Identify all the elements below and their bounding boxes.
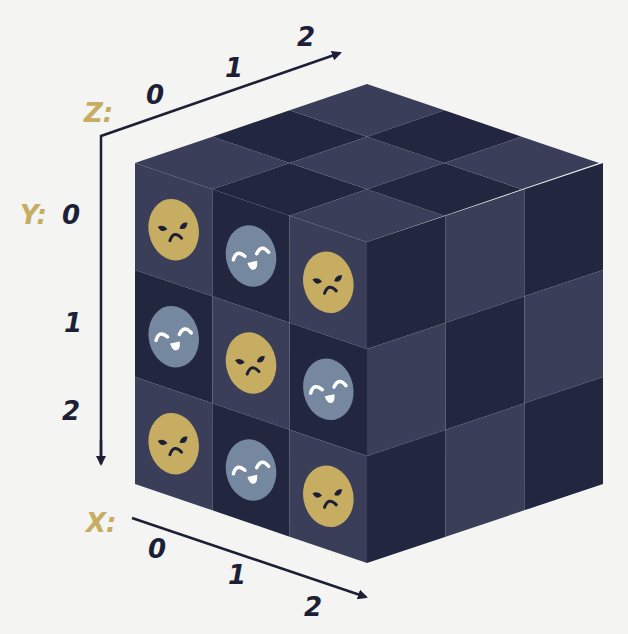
y-axis-label: Y: <box>20 202 47 228</box>
z-tick-2: 2 <box>297 24 315 50</box>
y-tick-2: 2 <box>62 398 80 424</box>
y-tick-0: 0 <box>62 202 80 228</box>
z-axis-label: Z: <box>84 100 113 126</box>
cube-svg <box>0 0 628 634</box>
x-tick-0: 0 <box>148 536 166 562</box>
x-tick-1: 1 <box>228 562 246 588</box>
x-tick-2: 2 <box>304 594 322 620</box>
z-tick-0: 0 <box>146 82 164 108</box>
y-tick-1: 1 <box>64 310 82 336</box>
isometric-cube-diagram: Z: 0 1 2 Y: 0 1 2 X: 0 1 2 <box>0 0 628 634</box>
z-tick-1: 1 <box>225 55 243 81</box>
x-axis-label: X: <box>86 510 116 536</box>
